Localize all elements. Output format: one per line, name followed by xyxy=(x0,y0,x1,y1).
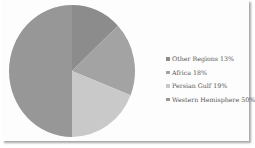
legend-label: Africa 18% xyxy=(172,69,207,76)
legend-swatch-icon xyxy=(166,84,170,88)
legend-item-other-regions: Other Regions 13% xyxy=(166,52,255,66)
legend-item-western-hemisphere: Western Hemisphere 50% xyxy=(166,93,255,107)
legend-label: Other Regions 13% xyxy=(172,55,234,62)
legend-label: Western Hemisphere 50% xyxy=(172,96,255,103)
legend-swatch-icon xyxy=(166,57,170,61)
legend-item-persian-gulf: Persian Gulf 19% xyxy=(166,79,255,93)
legend-item-africa: Africa 18% xyxy=(166,66,255,80)
legend-label: Persian Gulf 19% xyxy=(172,82,227,89)
chart-card: Other Regions 13% Africa 18% Persian Gul… xyxy=(2,0,249,141)
chart-legend: Other Regions 13% Africa 18% Persian Gul… xyxy=(166,52,255,106)
pie-slice-western-hemisphere xyxy=(9,5,72,137)
legend-swatch-icon xyxy=(166,98,170,102)
legend-swatch-icon xyxy=(166,71,170,75)
pie-chart xyxy=(8,4,136,138)
